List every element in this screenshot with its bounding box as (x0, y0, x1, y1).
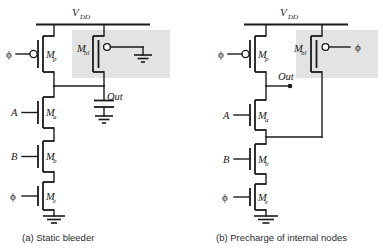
pmos-bubble-mp-a (30, 50, 37, 57)
highlight-region-precharge (296, 30, 378, 78)
output-node-dot-b (288, 84, 293, 89)
panel-a-static-bleeder: V DD M p ϕ (6, 6, 170, 223)
input-label-a-signal-b: A (222, 110, 230, 121)
label-mb-sub-a: b (53, 157, 57, 165)
caption-panel-b: (b) Precharge of internal nodes (216, 232, 347, 243)
vdd-sublabel-b: DD (287, 13, 298, 21)
pmos-bubble-mp-b (242, 50, 249, 57)
label-mp-sub-b: p (264, 55, 269, 63)
input-label-b-signal-b: B (223, 154, 230, 165)
vdd-sublabel-a: DD (79, 13, 90, 21)
label-mp-sub-a: p (52, 55, 57, 63)
label-ma-sub-a: a (53, 113, 57, 121)
label-me-sub-a: e (53, 197, 56, 205)
ground-symbol-cap-a (95, 116, 113, 123)
label-mb-sub-b: b (265, 160, 269, 168)
pmos-bubble-mbl-a (104, 44, 111, 51)
input-label-a-signal-a: A (10, 107, 18, 118)
input-label-phi-mp-b: ϕ (218, 48, 224, 60)
label-me-sub-b: e (265, 198, 268, 206)
vdd-label-b: V (280, 6, 288, 18)
vdd-label-a: V (72, 6, 80, 18)
figure-container: V DD M p ϕ (0, 0, 383, 252)
input-label-phi-mp-a: ϕ (6, 48, 12, 60)
circuit-schematic-canvas: V DD M p ϕ (0, 0, 383, 252)
input-label-phi-me-b: ϕ (222, 191, 228, 203)
input-label-phi-mbl-b: ϕ (355, 41, 361, 53)
ground-symbol-main-b (254, 216, 278, 223)
input-label-phi-me-a: ϕ (10, 190, 16, 202)
caption-panel-a: (a) Static bleeder (22, 232, 94, 243)
pmos-bubble-mbl-b (322, 44, 329, 51)
panel-b-precharge-internal-nodes: V DD M p ϕ (218, 6, 378, 223)
label-mbl-sub-b: bl (301, 49, 307, 57)
input-label-b-signal-a: B (11, 151, 18, 162)
label-mbl-sub-a: bl (84, 49, 90, 57)
label-ma-sub-b: a (265, 116, 269, 124)
output-label-b: Out (278, 71, 295, 82)
ground-symbol-main-a (43, 216, 65, 223)
